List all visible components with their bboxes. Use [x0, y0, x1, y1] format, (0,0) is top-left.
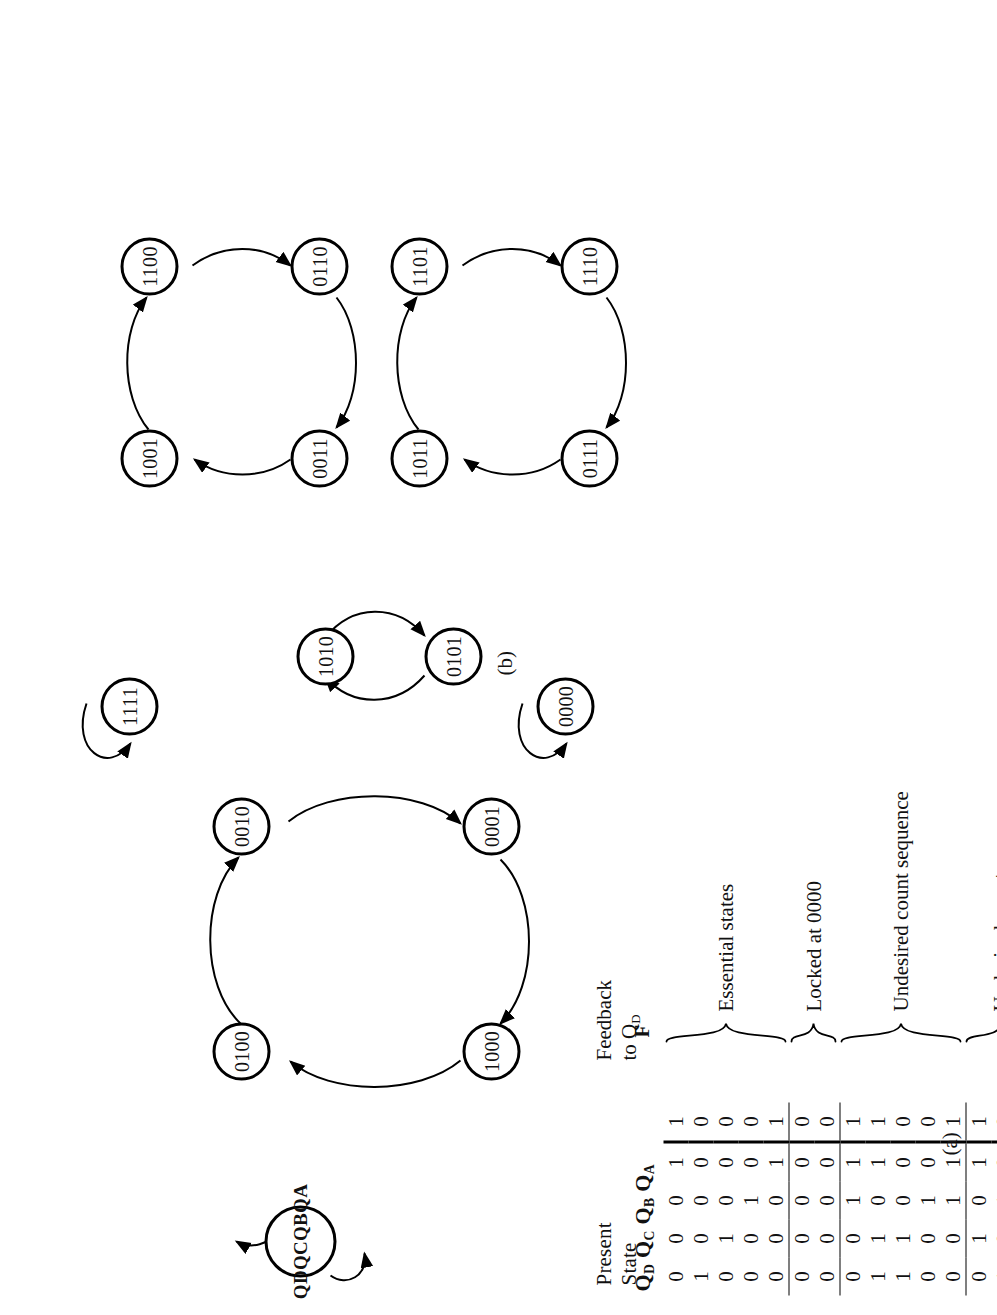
- state-node-0011[interactable]: 0011: [290, 429, 348, 487]
- cell-qc: 0: [789, 1219, 815, 1257]
- cell-qa: 1: [840, 1142, 866, 1182]
- cell-qb: 0: [890, 1181, 915, 1219]
- cell-qd: 0: [663, 1257, 688, 1295]
- cell-qd: 1: [890, 1257, 915, 1295]
- header-feedback-sub: D: [627, 1014, 642, 1023]
- state-table-section: Present State Feedback to QD QD QC QB QA…: [585, 10, 985, 1305]
- cell-qa: 0: [688, 1142, 713, 1182]
- table-row: 00100: [915, 1102, 940, 1295]
- table-row: 00011: [763, 1102, 789, 1295]
- cell-qd: 1: [991, 1257, 997, 1295]
- cell-qd: 0: [763, 1257, 789, 1295]
- table-row: 00011: [663, 1102, 688, 1295]
- cell-qb: 1: [915, 1181, 940, 1219]
- cell-f: 0: [991, 1102, 997, 1142]
- cell-qc: 0: [663, 1219, 688, 1257]
- cell-f: 1: [966, 1102, 992, 1142]
- state-node-1011[interactable]: 1011: [390, 429, 448, 487]
- cell-qc: 0: [840, 1219, 866, 1257]
- cell-qb: 0: [966, 1181, 992, 1219]
- label-qc: QC: [629, 1230, 654, 1258]
- state-node-1010[interactable]: 1010: [296, 627, 354, 685]
- cell-f: 0: [814, 1102, 840, 1142]
- cell-f: 0: [789, 1102, 815, 1142]
- cell-qc: 0: [763, 1219, 789, 1257]
- state-table: 0001110000010000010000011000000000000111…: [663, 1102, 997, 1295]
- state-node-0010[interactable]: 0010: [212, 797, 270, 855]
- cell-qb: 0: [865, 1181, 890, 1219]
- cell-qc: 0: [915, 1219, 940, 1257]
- cell-f: 1: [865, 1102, 890, 1142]
- state-node-0101[interactable]: 0101: [424, 627, 482, 685]
- state-table-tbody: 0001110000010000010000011000000000000111…: [663, 1102, 997, 1295]
- cell-qb: 1: [991, 1181, 997, 1219]
- cell-qa: 0: [814, 1142, 840, 1182]
- caption-a: (a): [937, 1132, 962, 1155]
- table-row: 01000: [713, 1102, 738, 1295]
- cell-qb: 0: [789, 1181, 815, 1219]
- cell-qc: 0: [991, 1219, 997, 1257]
- cell-f: 0: [890, 1102, 915, 1142]
- cell-qb: 0: [763, 1181, 789, 1219]
- state-diagram: QDQCQBQA 0100 0010 0001 1000 1111 0000 1…: [0, 0, 575, 1315]
- table-row: 11011: [865, 1102, 890, 1295]
- brace-icon: [963, 1017, 997, 1043]
- cell-qd: 0: [738, 1257, 763, 1295]
- column-label-f: F: [629, 1024, 654, 1037]
- cell-qb: 0: [663, 1181, 688, 1219]
- cell-f: 0: [915, 1102, 940, 1142]
- group-annotation: Essential states: [663, 883, 788, 1043]
- cell-qc: 0: [738, 1219, 763, 1257]
- table-row: 00000: [814, 1102, 840, 1295]
- group-annotation: Locked at 0000: [788, 880, 838, 1043]
- state-node-1001[interactable]: 1001: [120, 429, 178, 487]
- cell-f: 1: [763, 1102, 789, 1142]
- cell-qc: 1: [966, 1219, 992, 1257]
- caption-b: (b): [492, 651, 517, 676]
- cell-f: 1: [663, 1102, 688, 1142]
- state-node-1000[interactable]: 1000: [462, 1022, 520, 1080]
- state-node-1100[interactable]: 1100: [120, 237, 178, 295]
- state-diagram-edges: [0, 0, 575, 1315]
- cell-qa: 0: [915, 1142, 940, 1182]
- column-labels-q: QD QC QB QA: [629, 1163, 655, 1291]
- group-annotation-label: Undesired count sequence: [988, 791, 997, 1011]
- group-annotation: Undesired count sequence: [838, 791, 963, 1043]
- table-row: 00100: [738, 1102, 763, 1295]
- brace-icon: [663, 1017, 788, 1043]
- cell-qa: 0: [789, 1142, 815, 1182]
- cell-qb: 0: [713, 1181, 738, 1219]
- cell-qd: 0: [789, 1257, 815, 1295]
- state-table-body: 0001110000010000010000011000000000000111…: [663, 1102, 997, 1295]
- cell-qa: 0: [713, 1142, 738, 1182]
- cell-qa: 0: [738, 1142, 763, 1182]
- table-row: 01011: [966, 1102, 992, 1295]
- state-node-0001[interactable]: 0001: [462, 797, 520, 855]
- cell-qb: 0: [814, 1181, 840, 1219]
- cell-qc: 0: [940, 1219, 966, 1257]
- state-node-legend[interactable]: QDQCQBQA: [264, 1205, 336, 1277]
- cell-qa: 0: [890, 1142, 915, 1182]
- brace-icon: [788, 1017, 838, 1043]
- cell-qd: 0: [713, 1257, 738, 1295]
- state-node-0110[interactable]: 0110: [290, 237, 348, 295]
- state-node-1111[interactable]: 1111: [100, 677, 158, 735]
- cell-qd: 0: [940, 1257, 966, 1295]
- table-row: 00000: [789, 1102, 815, 1295]
- header-feedback: Feedback to QD: [591, 980, 641, 1060]
- cell-qd: 1: [865, 1257, 890, 1295]
- cell-qd: 0: [840, 1257, 866, 1295]
- state-node-1101[interactable]: 1101: [390, 237, 448, 295]
- cell-qb: 1: [940, 1181, 966, 1219]
- cell-qa: 1: [966, 1142, 992, 1182]
- cell-qd: 0: [966, 1257, 992, 1295]
- label-qd: QD: [629, 1263, 654, 1291]
- cell-f: 0: [713, 1102, 738, 1142]
- state-node-0100[interactable]: 0100: [212, 1022, 270, 1080]
- cell-qc: 1: [865, 1219, 890, 1257]
- cell-qc: 1: [713, 1219, 738, 1257]
- cell-qa: 1: [663, 1142, 688, 1182]
- label-qa: QA: [629, 1163, 654, 1191]
- cell-qd: 0: [814, 1257, 840, 1295]
- figure-root: QDQCQBQA 0100 0010 0001 1000 1111 0000 1…: [0, 0, 997, 1315]
